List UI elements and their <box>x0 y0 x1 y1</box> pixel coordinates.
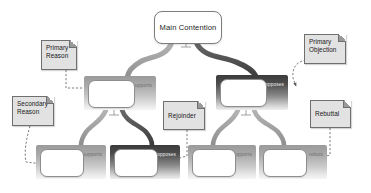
relation-label: opposes <box>265 82 284 87</box>
note-line-1: Secondary <box>17 100 49 108</box>
node-sub-3-box[interactable] <box>192 149 236 177</box>
relation-label: supports <box>133 83 152 88</box>
edge-objection1-to-sub3 <box>213 110 238 145</box>
node-reason-1-box[interactable] <box>88 80 135 108</box>
relation-label: rebuts <box>309 152 323 157</box>
edge-root-to-reason1 <box>127 42 172 78</box>
node-sub-2-box[interactable] <box>114 149 158 177</box>
stub-objection1 <box>241 110 251 115</box>
note-line-2: Reason <box>17 108 49 116</box>
note-rebuttal[interactable]: Rebuttal <box>310 100 351 128</box>
relation-label: supports <box>83 152 102 157</box>
note-line-2: Reason <box>46 52 72 60</box>
argument-map-diagram: Main Contention supports opposes support… <box>0 0 371 193</box>
node-main-contention-label: Main Contention <box>160 23 217 32</box>
page-fold-icon <box>46 96 54 104</box>
relation-label: opposes <box>157 152 176 157</box>
node-objection-1-box[interactable] <box>220 79 267 107</box>
edge-root-to-objection1 <box>196 42 256 77</box>
note-primary-reason[interactable]: Primary Reason <box>41 40 77 70</box>
note-line-2: Objection <box>309 46 341 54</box>
note-line-1: Primary <box>309 38 341 46</box>
note-line-1: Rebuttal <box>315 110 346 118</box>
node-sub-4[interactable]: rebuts <box>259 145 327 179</box>
page-fold-icon <box>343 100 351 108</box>
page-fold-icon <box>197 101 205 109</box>
note-rejoinder[interactable]: Rejoinder <box>163 101 205 130</box>
note-secondary-reason[interactable]: Secondary Reason <box>12 96 54 126</box>
edge-reason1-to-sub2 <box>122 110 152 145</box>
node-main-contention[interactable]: Main Contention <box>154 11 222 44</box>
edge-objection1-to-sub4 <box>254 110 284 145</box>
node-reason-1[interactable]: supports <box>84 76 156 110</box>
stub-reason1 <box>109 110 119 115</box>
page-fold-icon <box>338 34 346 42</box>
node-sub-1-box[interactable] <box>40 149 84 177</box>
edge-reason1-to-sub1 <box>81 110 106 145</box>
node-sub-2[interactable]: opposes <box>110 145 180 179</box>
page-fold-icon <box>69 40 77 48</box>
node-sub-4-box[interactable] <box>263 149 307 177</box>
note-line-1: Rejoinder <box>168 112 200 120</box>
node-sub-3[interactable]: supports <box>188 145 256 179</box>
note-primary-objection[interactable]: Primary Objection <box>304 34 346 64</box>
node-objection-1[interactable]: opposes <box>216 75 288 110</box>
node-sub-1[interactable]: supports <box>36 145 106 179</box>
